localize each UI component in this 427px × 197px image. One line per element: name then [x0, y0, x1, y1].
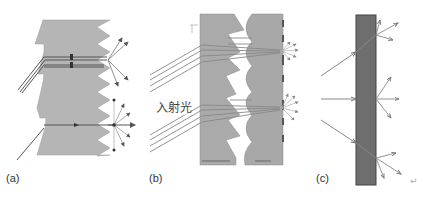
return-mark: ↵ [410, 176, 418, 186]
panel-b: 入射光 (b) [140, 0, 300, 197]
panel-c-label: (c) [316, 172, 329, 184]
panel-a-label: (a) [6, 172, 19, 184]
prism-sheet [200, 14, 244, 165]
diffuser-slab-diagram [300, 0, 427, 197]
panel-a: (a) [0, 0, 150, 197]
diffuser-slab [356, 15, 376, 185]
lenticular-sheet [244, 14, 283, 165]
panel-b-label: (b) [149, 172, 162, 184]
panel-c: (c) ↵ [300, 0, 427, 197]
incident-light-label: 入射光 [156, 98, 192, 115]
prism-sheet-diagram [0, 0, 150, 197]
prism-body [35, 20, 110, 156]
